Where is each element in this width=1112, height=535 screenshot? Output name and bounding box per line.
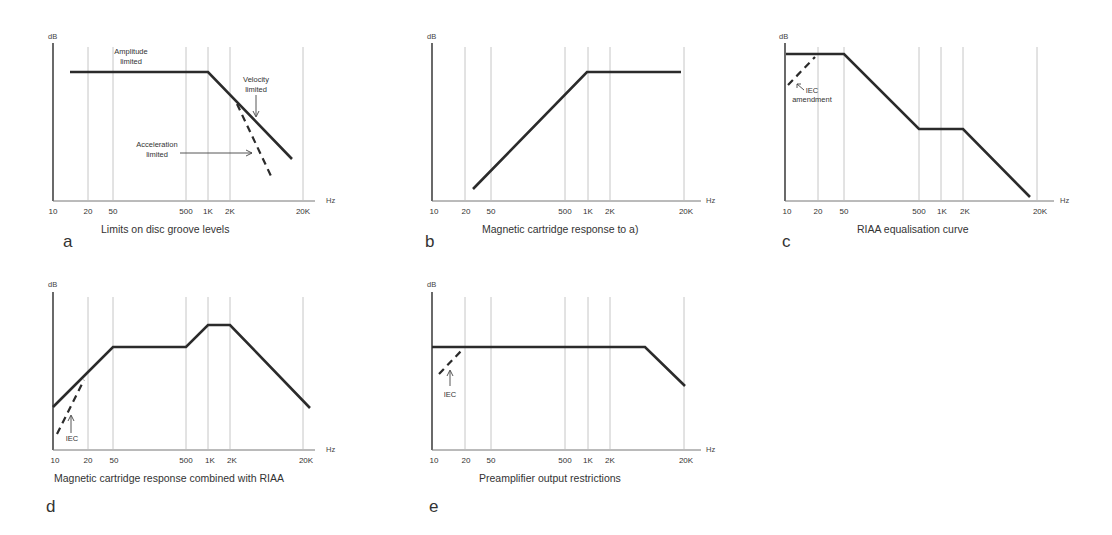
riaa-curve [786, 54, 1030, 197]
velocity-label-1: Velocity [243, 75, 269, 84]
svg-text:50: 50 [487, 456, 496, 465]
x-axis-label: Hz [706, 445, 715, 454]
preamp-output-curve [432, 347, 685, 386]
svg-text:2K: 2K [605, 456, 615, 465]
svg-text:10: 10 [783, 207, 792, 216]
svg-text:50: 50 [110, 456, 119, 465]
svg-text:10: 10 [430, 207, 439, 216]
x-axis-label: Hz [326, 196, 335, 205]
cartridge-response-curve [473, 72, 681, 189]
svg-text:1K: 1K [203, 207, 213, 216]
svg-text:2K: 2K [225, 207, 235, 216]
svg-text:1K: 1K [583, 207, 593, 216]
iec-arrow-icon [797, 84, 804, 90]
y-axis-label: dB [48, 280, 57, 289]
acceleration-arrow-icon [180, 150, 252, 156]
iec-label: IEC [66, 434, 79, 443]
x-tick-labels: 10 20 50 500 1K 2K 20K [430, 207, 694, 216]
svg-text:50: 50 [109, 207, 118, 216]
panel-b-letter: b [425, 232, 434, 251]
svg-text:500: 500 [912, 207, 926, 216]
y-axis-label: dB [48, 32, 57, 41]
svg-text:20K: 20K [296, 207, 311, 216]
svg-text:20: 20 [84, 207, 93, 216]
iec-amendment-dashed [788, 57, 815, 85]
panel-b-caption: Magnetic cartridge response to a) [482, 223, 638, 235]
svg-text:10: 10 [49, 207, 58, 216]
svg-text:500: 500 [558, 207, 572, 216]
x-tick-labels: 10 20 50 500 1K 2K 20K [51, 456, 314, 465]
y-axis-label: dB [779, 32, 788, 41]
svg-text:10: 10 [430, 456, 439, 465]
svg-text:2K: 2K [960, 207, 970, 216]
svg-text:2K: 2K [605, 207, 615, 216]
iec-label-2: amendment [792, 95, 833, 104]
svg-text:20K: 20K [299, 456, 314, 465]
gridlines [465, 47, 684, 200]
svg-text:10: 10 [51, 456, 60, 465]
iec-label: IEC [444, 390, 457, 399]
x-tick-labels: 10 20 50 500 1K 2K 20K [430, 456, 694, 465]
panel-e: dB Hz 10 20 50 500 1K 2K 20K IEC Preampl… [427, 280, 715, 516]
acceleration-label-1: Acceleration [136, 140, 177, 149]
x-tick-labels: 10 20 50 500 1K 2K 20K [49, 207, 311, 216]
svg-text:50: 50 [487, 207, 496, 216]
svg-text:500: 500 [179, 456, 193, 465]
iec-label-1: IEC [806, 86, 819, 95]
velocity-arrow-icon [253, 95, 259, 117]
panel-e-letter: e [429, 497, 438, 516]
svg-text:20: 20 [462, 456, 471, 465]
panel-a-letter: a [63, 232, 73, 251]
panel-a: dB Hz 10 20 50 500 1K 2K 20K Amplitude l… [48, 32, 335, 251]
x-axis-label: Hz [1060, 196, 1069, 205]
svg-text:20K: 20K [679, 207, 694, 216]
panel-c-caption: RIAA equalisation curve [857, 223, 969, 235]
svg-text:1K: 1K [205, 456, 215, 465]
x-axis-label: Hz [706, 196, 715, 205]
svg-text:500: 500 [558, 456, 572, 465]
svg-text:20: 20 [814, 207, 823, 216]
panel-c: dB Hz 10 20 50 500 1K 2K 20K IEC amendme… [779, 32, 1069, 251]
svg-text:500: 500 [179, 207, 193, 216]
y-axis-label: dB [427, 280, 436, 289]
amplitude-label-2: limited [120, 57, 142, 66]
panel-e-caption: Preamplifier output restrictions [479, 472, 621, 484]
panel-c-letter: c [782, 232, 791, 251]
gridlines [88, 47, 303, 200]
svg-text:20K: 20K [679, 456, 694, 465]
acceleration-label-2: limited [146, 150, 168, 159]
svg-text:20: 20 [84, 456, 93, 465]
x-axis-label: Hz [326, 445, 335, 454]
panel-d: dB Hz 10 20 50 500 1K 2K 20K IEC Magneti… [46, 280, 335, 516]
x-tick-labels: 10 20 50 500 1K 2K 20K [783, 207, 1048, 216]
svg-text:1K: 1K [583, 456, 593, 465]
svg-text:2K: 2K [227, 456, 237, 465]
panel-b: dB Hz 10 20 50 500 1K 2K 20K Magnetic ca… [425, 32, 715, 251]
panel-a-caption: Limits on disc groove levels [101, 223, 229, 235]
iec-arrow-icon [68, 415, 74, 433]
svg-text:50: 50 [840, 207, 849, 216]
gridlines [88, 297, 303, 449]
panel-d-letter: d [46, 497, 55, 516]
panel-d-caption: Magnetic cartridge response combined wit… [54, 472, 284, 484]
velocity-label-2: limited [245, 85, 267, 94]
svg-text:1K: 1K [937, 207, 947, 216]
figure-canvas: dB Hz 10 20 50 500 1K 2K 20K Amplitude l… [0, 0, 1112, 535]
combined-response-curve [53, 325, 310, 408]
amplitude-label-1: Amplitude [114, 47, 147, 56]
acceleration-limited-dashed [237, 104, 271, 176]
svg-text:20K: 20K [1033, 207, 1048, 216]
iec-arrow-icon [447, 370, 453, 386]
gridlines [818, 47, 1037, 200]
svg-text:20: 20 [462, 207, 471, 216]
gridlines [465, 297, 684, 449]
y-axis-label: dB [427, 32, 436, 41]
